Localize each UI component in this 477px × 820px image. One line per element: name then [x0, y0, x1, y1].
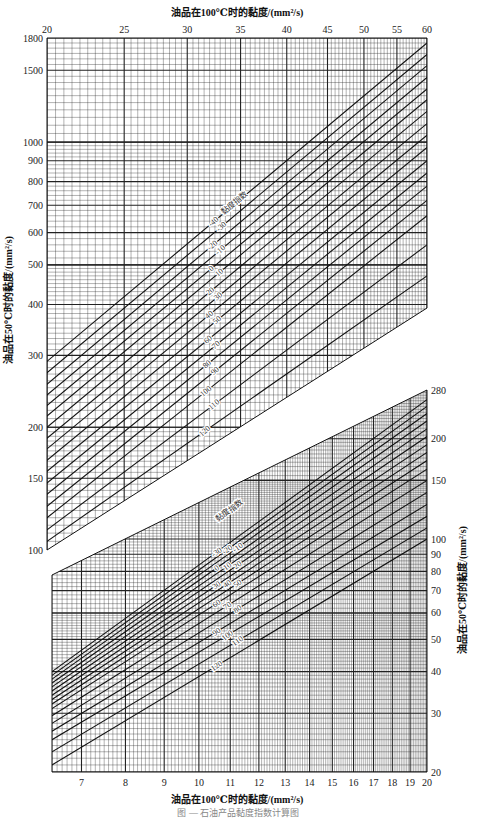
index-line-40 [52, 452, 427, 699]
bottom-x-tick: 10 [194, 777, 204, 788]
right-y-tick: 280 [431, 385, 446, 396]
top-x-tick: 60 [422, 24, 432, 35]
right-y-tick: 30 [431, 708, 441, 719]
bottom-x-tick: 16 [349, 777, 359, 788]
left-y-tick: 1500 [23, 65, 43, 76]
right-y-tick: 20 [431, 767, 441, 778]
right-y-tick: 60 [431, 607, 441, 618]
vi-label-40: 40 [221, 578, 233, 590]
upper-chart-grid [47, 38, 427, 550]
bottom-x-tick: 20 [422, 777, 432, 788]
top-x-tick: 30 [182, 24, 192, 35]
upper-chart-border [47, 38, 427, 550]
right-y-tick: 200 [431, 433, 446, 444]
right-axis-title: 油品在50℃时的黏度/(mm²/s) [456, 526, 469, 654]
left-y-tick: 150 [28, 473, 43, 484]
left-y-tick: 100 [28, 545, 43, 556]
bottom-x-tick: 12 [254, 777, 264, 788]
top-x-tick: 50 [359, 24, 369, 35]
bottom-x-tick: 8 [123, 777, 128, 788]
top-x-tick: 40 [282, 24, 292, 35]
viscosity-index-nomogram: 2025303540455055601001502003004005006007… [0, 0, 477, 820]
right-y-tick: 90 [431, 549, 441, 560]
left-y-tick: 200 [28, 422, 43, 433]
bottom-x-tick: 13 [280, 777, 290, 788]
bottom-x-tick: 17 [369, 777, 379, 788]
right-y-tick: 40 [431, 666, 441, 677]
top-x-tick: 55 [392, 24, 402, 35]
left-y-tick: 900 [28, 155, 43, 166]
left-y-tick: 800 [28, 176, 43, 187]
left-y-tick: 700 [28, 200, 43, 211]
left-y-tick: 600 [28, 227, 43, 238]
bottom-axis-title: 油品在100℃时的黏度/(mm²/s) [171, 793, 304, 806]
top-axis-title: 油品在100℃时的黏度/(mm²/s) [171, 6, 304, 19]
vi-label-10: 10 [221, 560, 233, 572]
right-y-tick: 50 [431, 634, 441, 645]
bottom-x-tick: 7 [79, 777, 84, 788]
bottom-x-tick: 14 [305, 777, 315, 788]
top-x-tick: 20 [42, 24, 52, 35]
bottom-x-tick: 9 [162, 777, 167, 788]
top-x-tick: 45 [322, 24, 332, 35]
vi-label-30: 30 [211, 579, 223, 591]
bottom-x-tick: 18 [387, 777, 397, 788]
vi-label-120: 120 [209, 659, 224, 673]
left-axis-title: 油品在50℃时的黏度/(mm²/s) [2, 236, 15, 364]
bottom-x-tick: 11 [225, 777, 235, 788]
index-line-100 [7, 216, 427, 550]
vi-label-110: 110 [206, 397, 221, 411]
left-y-tick: 400 [28, 299, 43, 310]
vi-label-70: 70 [221, 600, 233, 612]
legend-title: 黏度指数 [219, 188, 250, 216]
vi-label-100: 100 [198, 384, 213, 399]
right-y-tick: 70 [431, 585, 441, 596]
right-y-tick: 100 [431, 534, 446, 545]
bottom-x-tick: 15 [327, 777, 337, 788]
top-x-tick: 25 [119, 24, 129, 35]
top-x-tick: 35 [236, 24, 246, 35]
index-line-120 [52, 539, 427, 765]
vi-label--10: -10 [231, 541, 245, 555]
index-line-70 [52, 480, 427, 715]
left-y-tick: 300 [28, 350, 43, 361]
left-y-tick: 1000 [23, 137, 43, 148]
left-y-tick: 1800 [23, 33, 43, 44]
bottom-x-tick: 19 [405, 777, 415, 788]
left-y-tick: 500 [28, 259, 43, 270]
figure-caption: 图 — 石油产品黏度指数计算图 [0, 806, 477, 819]
right-y-tick: 150 [431, 475, 446, 486]
right-y-tick: 80 [431, 566, 441, 577]
